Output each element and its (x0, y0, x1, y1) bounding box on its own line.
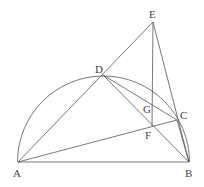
segment-EB (153, 22, 189, 162)
label-C: C (180, 109, 187, 121)
segment-DC (103, 75, 177, 120)
label-B: B (185, 167, 192, 179)
label-F: F (145, 129, 151, 141)
label-D: D (95, 63, 103, 75)
label-E: E (149, 8, 156, 20)
geometry-diagram: A B C D E F G (0, 0, 204, 187)
semicircle-arc (18, 76, 190, 162)
label-G: G (143, 103, 151, 115)
segment-AE (18, 22, 153, 162)
segment-EF (152, 22, 153, 126)
segment-DB (103, 75, 189, 162)
label-A: A (13, 167, 21, 179)
